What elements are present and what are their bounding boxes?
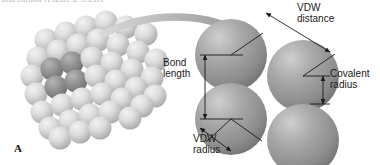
vdw-distance-line2: distance (297, 13, 334, 24)
crystal-lattice-cluster (21, 11, 168, 150)
bond-length-line1: Bond (163, 57, 190, 68)
sphere-bottom-right (267, 104, 339, 165)
label-bond-length: Bond length (163, 57, 190, 79)
atomic-radii-figure: and carbon (Figure 2-5A,B). (0, 0, 380, 165)
vdw-radius-line1: VDW (193, 133, 220, 144)
covalent-radius-line1: Covalent (330, 68, 369, 79)
label-vdw-radius: VDW radius (193, 133, 220, 155)
panel-letter: A (14, 142, 22, 154)
vdw-radius-line2: radius (193, 144, 220, 155)
bond-length-line2: length (163, 68, 190, 79)
vdw-distance-line1: VDW (297, 2, 334, 13)
label-covalent-radius: Covalent radius (330, 68, 369, 90)
covalent-radius-line2: radius (330, 79, 369, 90)
figure-graphics (0, 0, 380, 165)
label-vdw-distance: VDW distance (297, 2, 334, 24)
